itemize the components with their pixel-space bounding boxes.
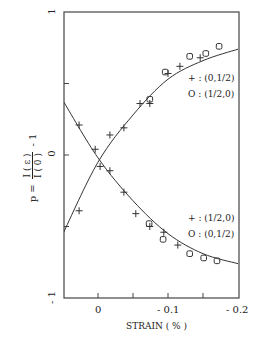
ylabel-rhs: - 1 [27, 134, 38, 147]
open-marker [160, 237, 166, 243]
x-tick-label-0: 0 [95, 304, 101, 315]
open-marker [187, 251, 193, 257]
x-tick-label-0.2: - 0.2 [226, 304, 248, 315]
y-tick-label-0: 0 [46, 148, 57, 160]
plus-marker [92, 146, 99, 153]
open-marker [187, 54, 193, 60]
open-marker [201, 255, 207, 261]
ylabel-denominator: I ( 0 ) [33, 153, 43, 178]
open-marker [203, 51, 209, 57]
legend-lower-plus: + : (1/2,0) [188, 213, 234, 223]
open-marker [146, 221, 152, 227]
plus-marker [137, 100, 144, 107]
x-tick-label-0.1: - 0.1 [157, 304, 179, 315]
y-axis-label: p = I ( ε ) I ( 0 ) - 1 [12, 118, 52, 218]
plus-marker [120, 124, 127, 131]
legend-upper-open: O : (1/2,0) [188, 89, 234, 99]
open-marker [216, 44, 222, 50]
plus-marker [160, 229, 167, 236]
x-axis-label: STRAIN ( % ) [126, 321, 187, 331]
open-marker [162, 69, 168, 75]
ylabel-lhs: p = [27, 184, 38, 202]
plus-marker [106, 167, 113, 174]
legend-lower-open: O : (0,1/2) [188, 229, 234, 239]
ylabel-numerator: I ( ε ) [22, 152, 33, 180]
plus-marker [106, 131, 113, 138]
plot-frame [64, 12, 239, 298]
legend-upper-plus: + : (0,1/2) [188, 73, 234, 83]
y-tick-label-1: 1 [46, 6, 57, 18]
plus-marker [76, 207, 83, 214]
fit-curve-falling [63, 101, 238, 264]
plus-marker [176, 63, 183, 70]
plus-marker [120, 189, 127, 196]
y-tick-label-neg1: - 1 [46, 289, 57, 307]
plus-marker [76, 121, 83, 128]
plus-marker [132, 210, 139, 217]
plus-marker [174, 242, 181, 249]
